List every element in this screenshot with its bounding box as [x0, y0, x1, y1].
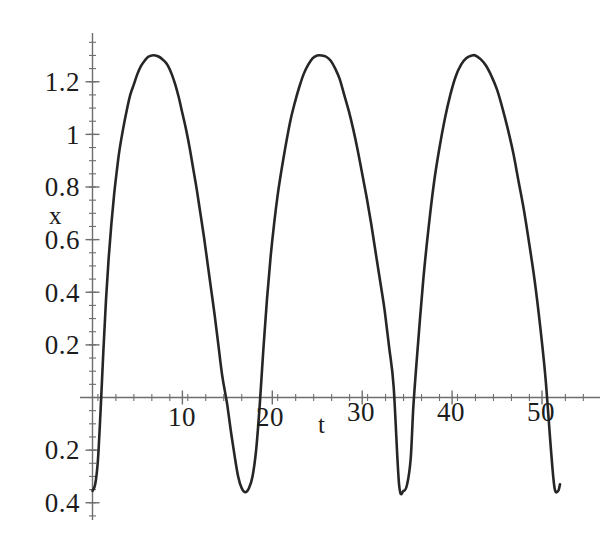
y-axis-title: x	[49, 203, 62, 228]
plot-figure: 1.2 1 0.8 0.6 0.4 0.2 0.2 0.4 10 20 30 4…	[0, 0, 610, 537]
x-tick-label-40: 40	[421, 399, 481, 426]
x-tick-label-30: 30	[331, 399, 391, 426]
y-tick-label-0.6: 0.6	[26, 227, 80, 254]
y-tick-label-0.8: 0.8	[26, 174, 80, 201]
x-tick-label-50: 50	[511, 399, 571, 426]
x-axis-title: t	[318, 412, 325, 437]
y-tick-label-0.2: 0.2	[26, 332, 80, 359]
x-tick-label-10: 10	[152, 404, 212, 431]
axes-group	[80, 33, 600, 520]
y-tick-label-0.4: 0.4	[26, 280, 80, 307]
y-tick-label-1: 1	[26, 122, 80, 149]
plot-canvas	[0, 0, 610, 537]
y-tick-label-1.2: 1.2	[26, 69, 80, 96]
x-tick-label-20: 20	[240, 404, 300, 431]
y-tick-label-negative-0.4: 0.4	[26, 490, 80, 517]
y-tick-label-negative-0.2: 0.2	[26, 437, 80, 464]
